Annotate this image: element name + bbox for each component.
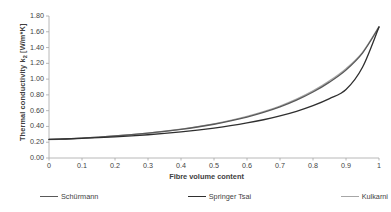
x-axis-tick-label: 0.8 [300, 161, 326, 170]
x-axis-tick-label: 0.4 [168, 161, 194, 170]
legend-item[interactable]: Schürmann [40, 192, 98, 201]
legend-label: Schürmann [61, 192, 98, 201]
x-axis-tick-label: 1 [366, 161, 391, 170]
x-axis-tick-label: 0.3 [135, 161, 161, 170]
x-axis-tick-label: 0.2 [102, 161, 128, 170]
x-axis-tick-label: 0.1 [69, 161, 95, 170]
legend-line-swatch [341, 196, 359, 197]
legend-label: Kulkarni [362, 192, 388, 201]
legend-label: Springer Tsai [209, 192, 251, 201]
x-axis-tick-label: 0.7 [267, 161, 293, 170]
legend-line-swatch [40, 196, 58, 197]
chart-legend: SchürmannSpringer TsaiKulkarni [40, 192, 388, 201]
thermal-conductivity-line-chart: Thermal conductivity k2 [W/m*K] 0.000.20… [0, 0, 391, 212]
legend-item[interactable]: Kulkarni [341, 192, 388, 201]
x-axis-tick-label: 0.9 [333, 161, 359, 170]
x-axis-tick-label: 0.6 [234, 161, 260, 170]
legend-line-swatch [188, 196, 206, 197]
x-axis-tick-label: 0 [36, 161, 62, 170]
x-axis-title: Fibre volume content [0, 172, 391, 181]
legend-item[interactable]: Springer Tsai [188, 192, 251, 201]
x-axis-tick-label: 0.5 [201, 161, 227, 170]
